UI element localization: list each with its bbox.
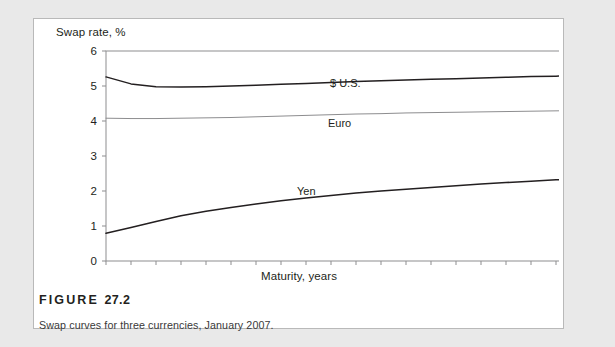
y-tick-label: 4: [91, 115, 98, 127]
y-axis-ticks: 0123456: [91, 45, 106, 267]
series-line-yen: [106, 178, 559, 233]
y-tick-label: 1: [91, 220, 97, 232]
chart-series-group: [106, 76, 559, 234]
figure-number-value: 27.2: [104, 293, 130, 307]
figure-number-prefix: FIGURE: [39, 293, 99, 307]
y-tick-label: 2: [91, 185, 97, 197]
x-axis-ticks: 1234567891011121314151617181920: [103, 261, 559, 268]
swap-curves-chart: 0123456 1234567891011121314151617181920: [39, 23, 559, 268]
y-tick-label: 3: [91, 150, 97, 162]
y-tick-label: 0: [91, 255, 97, 267]
figure-caption-block: FIGURE 27.2 Swap curves for three curren…: [39, 293, 554, 331]
x-axis-title: Maturity, years: [39, 270, 559, 282]
series-label-usd: $ U.S.: [330, 77, 361, 89]
series-label-euro: Euro: [328, 117, 351, 129]
figure-number: FIGURE 27.2: [39, 293, 554, 307]
series-label-yen: Yen: [297, 185, 316, 197]
y-tick-label: 6: [91, 45, 97, 57]
figure-caption-text: Swap curves for three currencies, Januar…: [39, 319, 554, 331]
chart-plot-area: Swap rate, % 0123456 1234567891011121314…: [39, 23, 559, 288]
y-tick-label: 5: [91, 80, 97, 92]
page-background: { "figure": { "number_prefix": "FIGURE",…: [0, 0, 615, 347]
figure-card: Swap rate, % 0123456 1234567891011121314…: [33, 18, 564, 329]
